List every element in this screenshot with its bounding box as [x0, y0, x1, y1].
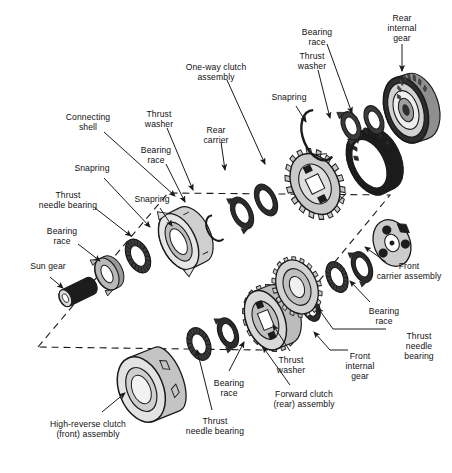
- label-front-internal-gear: Front internal gear: [330, 351, 390, 382]
- leader-high-reverse-clutch: [102, 393, 125, 412]
- leader-thrust-washer-3: [273, 325, 290, 351]
- exploded-diagram-figure: Connecting shell Snapring Thrust needle …: [0, 0, 452, 473]
- label-rear-carrier: Rear carrier: [181, 125, 251, 145]
- leader-snapring-2: [160, 208, 172, 226]
- label-bearing-race-1: Bearing race: [12, 226, 112, 246]
- leader-bearing-race-1: [78, 244, 100, 261]
- label-bearing-race-3: Bearing race: [282, 27, 352, 47]
- leader-snapring-3: [296, 106, 306, 122]
- leader-front-carrier-assembly: [365, 247, 386, 262]
- label-snapring-2: Snapring: [112, 194, 192, 204]
- leader-rear-carrier: [221, 142, 225, 170]
- label-thrust-needle-bearing-2: Thrust needle bearing: [390, 331, 448, 362]
- label-high-reverse-clutch: High-reverse clutch (front) assembly: [18, 419, 158, 439]
- label-forward-clutch-assembly: Forward clutch (rear) assembly: [244, 389, 364, 409]
- label-rear-internal-gear: Rear internal gear: [372, 13, 432, 44]
- leader-bearing-race-5: [229, 342, 244, 371]
- label-bearing-race-4: Bearing race: [349, 306, 419, 326]
- label-thrust-washer-3: Thrust washer: [256, 355, 326, 375]
- leader-front-internal-gear: [314, 332, 348, 350]
- leader-sun-gear: [50, 277, 63, 288]
- label-thrust-needle-bearing-3: Thrust needle bearing: [150, 416, 280, 436]
- label-thrust-washer-2: Thrust washer: [277, 51, 347, 71]
- label-bearing-race-2: Bearing race: [116, 145, 196, 165]
- label-sun-gear: Sun gear: [3, 261, 93, 271]
- label-front-carrier-assembly: Front carrier assembly: [349, 261, 452, 281]
- label-one-way-clutch-assembly: One-way clutch assembly: [161, 62, 271, 82]
- label-snapring-3: Snapring: [252, 92, 326, 102]
- leader-bearing-race-4: [350, 281, 370, 302]
